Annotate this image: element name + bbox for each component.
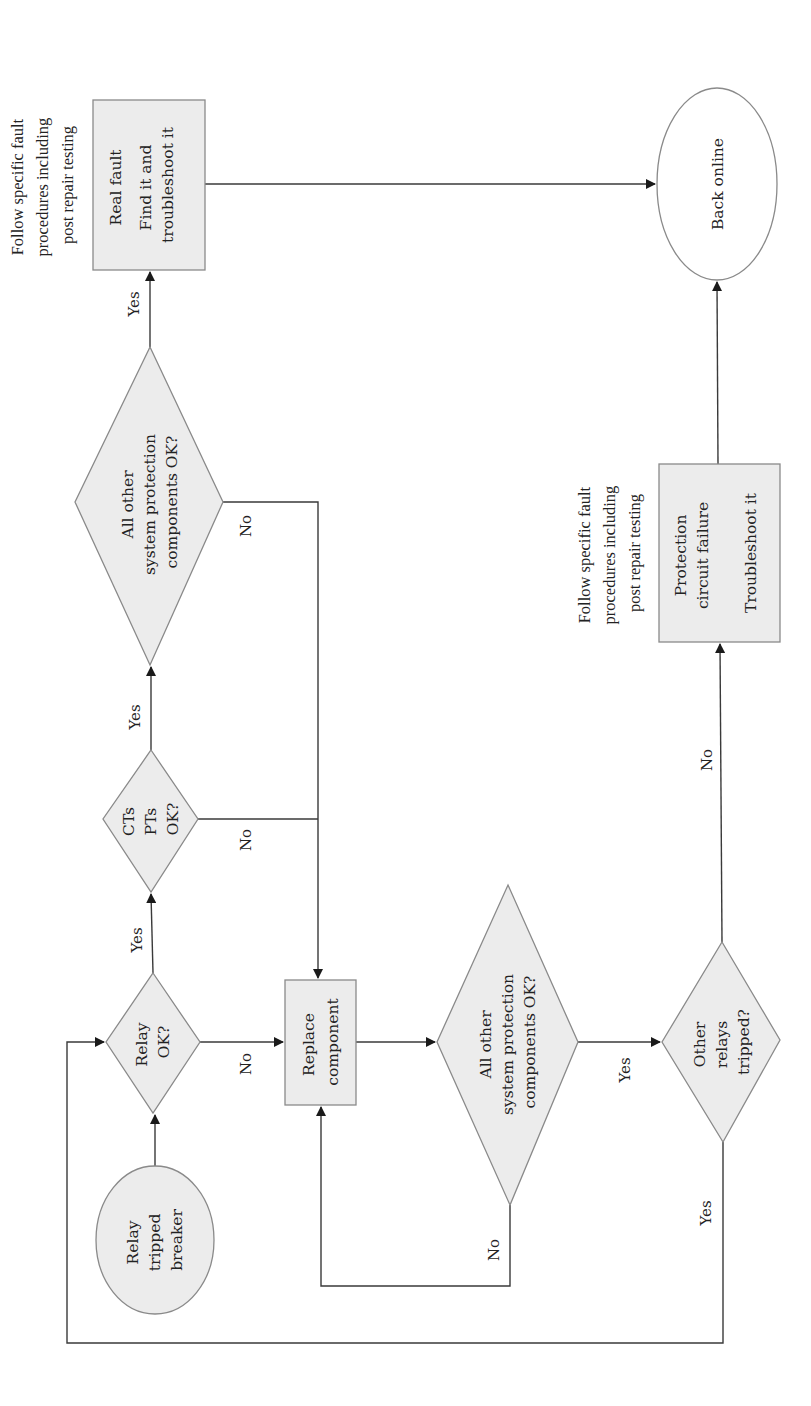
flowchart: Relay tripped breaker Relay OK? CTs PTs …	[0, 0, 811, 1406]
edge-protection-to-back-online	[717, 282, 718, 464]
node-back-online: Back online	[657, 88, 777, 280]
relay-ok-diamond	[106, 973, 200, 1113]
note-real-fault: Follow specific fault procedures includi…	[8, 114, 77, 257]
label-all1-no: No	[237, 515, 255, 537]
svg-text:Follow specific fault pr: Follow specific fault procedures includi…	[575, 482, 644, 625]
label-relay-ok-no: No	[237, 1053, 255, 1075]
edge-other-no	[720, 644, 722, 942]
node-other-relays-tripped: Other relays tripped?	[662, 942, 780, 1142]
label-other-no: No	[698, 749, 716, 771]
note-protection-failure: Follow specific fault procedures includi…	[575, 482, 644, 625]
node-all-other-components-1: All other system protection components O…	[75, 347, 223, 665]
label-all1-yes: Yes	[125, 291, 143, 317]
label-relay-ok-yes: Yes	[128, 927, 146, 953]
edge-relay-ok-yes	[151, 894, 153, 973]
label-cts-yes: Yes	[126, 704, 144, 730]
svg-text:Follow specific fault pr: Follow specific fault procedures includi…	[8, 114, 77, 257]
svg-text:CTs PTs OK?: CTs PTs OK?	[120, 802, 182, 836]
node-relay-ok: Relay OK?	[106, 973, 200, 1113]
node-protection-circuit-failure: Protection circuit failure Troubleshoot …	[659, 464, 780, 642]
svg-text:Other relays tripp: Other relays tripped?	[691, 1009, 753, 1075]
label-cts-no: No	[237, 829, 255, 851]
edge-labels: Yes No Yes No Yes No Yes No No Yes	[125, 291, 716, 1261]
node-real-fault: Real fault Find it and troubleshoot it	[93, 100, 205, 270]
node-cts-pts-ok: CTs PTs OK?	[103, 750, 198, 892]
node-replace-component: Replace component	[285, 980, 356, 1105]
svg-text:Back online: Back online	[709, 138, 727, 230]
replace-component-box	[285, 980, 356, 1105]
label-all2-yes: Yes	[616, 1057, 634, 1083]
label-all2-no: No	[485, 1239, 503, 1261]
edge-all1-no	[223, 502, 318, 978]
start-text: Relay tripped breaker	[124, 1209, 186, 1272]
node-relay-tripped-breaker: Relay tripped breaker	[96, 1166, 214, 1314]
label-other-yes: Yes	[697, 1200, 715, 1226]
node-all-other-components-2: All other system protection components O…	[437, 885, 578, 1205]
